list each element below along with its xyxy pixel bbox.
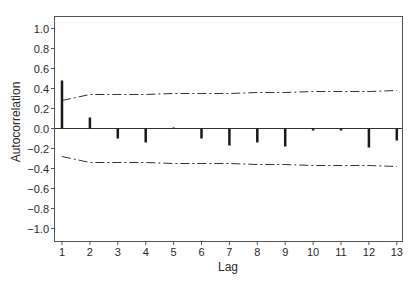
x-tick-label: 13: [391, 246, 403, 258]
y-tick-label: −0.8: [27, 203, 49, 215]
x-tick-label: 12: [363, 246, 375, 258]
acf-stem: [172, 128, 175, 129]
y-tick-label: −0.2: [27, 143, 49, 155]
y-tick-label: 0.4: [34, 83, 49, 95]
x-tick-label: 1: [59, 246, 65, 258]
acf-stem: [228, 129, 231, 146]
acf-stem: [89, 118, 92, 129]
acf-stem: [117, 129, 120, 139]
acf-stem: [312, 129, 315, 131]
x-tick-label: 7: [226, 246, 232, 258]
x-axis-label: Lag: [218, 260, 238, 274]
x-tick-label: 8: [254, 246, 260, 258]
x-tick-label: 2: [87, 246, 93, 258]
x-tick-label: 4: [143, 246, 149, 258]
y-tick-label: 0.2: [34, 103, 49, 115]
autocorrelation-chart: 1.00.80.60.40.20.0−0.2−0.4−0.6−0.8−1.0 1…: [0, 0, 418, 285]
acf-stem: [396, 129, 399, 141]
x-tick-label: 10: [307, 246, 319, 258]
y-tick-label: 0.6: [34, 63, 49, 75]
acf-stem: [284, 129, 287, 147]
y-tick-label: 0.0: [34, 123, 49, 135]
upper-confidence-line: [62, 91, 397, 101]
autocorrelation-stems: [61, 81, 398, 148]
acf-stem: [368, 129, 371, 148]
y-tick-label: −0.6: [27, 183, 49, 195]
x-tick-label: 6: [198, 246, 204, 258]
acf-stem: [144, 129, 147, 143]
acf-stem: [61, 81, 64, 129]
y-tick-label: −1.0: [27, 223, 49, 235]
x-tick-label: 11: [335, 246, 346, 258]
y-tick-label: −0.4: [27, 163, 49, 175]
acf-stem: [256, 129, 259, 143]
x-tick-label: 5: [171, 246, 177, 258]
acf-stem: [340, 129, 343, 131]
acf-stem: [200, 129, 203, 139]
x-tick-label: 3: [115, 246, 121, 258]
y-axis-label: Autocorrelation: [9, 82, 23, 163]
x-axis: 12345678910111213: [59, 241, 403, 258]
x-tick-label: 9: [282, 246, 288, 258]
lower-confidence-line: [62, 157, 397, 167]
y-axis: 1.00.80.60.40.20.0−0.2−0.4−0.6−0.8−1.0: [27, 23, 55, 235]
y-tick-label: 1.0: [34, 23, 49, 35]
y-tick-label: 0.8: [34, 43, 49, 55]
